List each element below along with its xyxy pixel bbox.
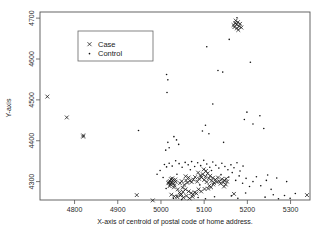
control-data-point: [156, 173, 158, 175]
y-tick-label: 4500: [28, 92, 35, 108]
control-data-point: [264, 196, 266, 198]
control-data-point: [165, 149, 167, 151]
control-data-point: [215, 164, 217, 166]
control-data-point: [266, 180, 268, 182]
y-axis-title: Y-axis: [5, 98, 12, 117]
control-data-point: [259, 115, 261, 117]
control-data-point: [184, 162, 186, 164]
control-data-point: [236, 17, 238, 19]
control-data-point: [236, 162, 238, 164]
y-tick-label: 4600: [28, 51, 35, 67]
control-data-point: [167, 79, 169, 81]
control-data-point: [167, 142, 169, 144]
control-data-point: [245, 192, 247, 194]
control-data-point: [228, 39, 230, 41]
control-data-point: [238, 175, 240, 177]
control-data-point: [202, 130, 204, 132]
control-data-point: [164, 164, 166, 166]
legend-label-case: Case: [98, 40, 116, 49]
control-data-point: [278, 198, 280, 200]
plot-canvas: 43004400450046004700 4800490050005100520…: [0, 0, 324, 236]
x-tick-label: 5300: [283, 206, 299, 213]
control-data-point: [212, 103, 214, 105]
control-data-point: [206, 163, 208, 165]
control-data-point: [260, 185, 262, 187]
control-data-point: [168, 147, 170, 149]
control-data-point: [208, 133, 210, 135]
y-tick-label: 4400: [28, 133, 35, 149]
control-data-point: [250, 61, 252, 63]
control-data-point: [218, 167, 220, 169]
control-data-point: [171, 165, 173, 167]
control-data-point: [230, 164, 232, 166]
control-data-point: [197, 162, 199, 164]
control-data-point: [173, 136, 175, 138]
control-data-point: [239, 170, 241, 172]
scatter-plot-figure: 43004400450046004700 4800490050005100520…: [0, 0, 324, 236]
legend: Case Control: [78, 31, 153, 61]
control-data-point: [162, 177, 164, 179]
control-data-point: [187, 164, 189, 166]
control-data-point: [231, 172, 233, 174]
control-data-point: [197, 197, 199, 199]
control-data-point: [295, 193, 297, 195]
control-data-point: [217, 70, 219, 72]
control-data-point: [194, 166, 196, 168]
control-data-point: [168, 162, 170, 164]
control-data-point: [220, 174, 222, 176]
control-data-point: [289, 198, 291, 200]
control-data-point: [138, 130, 140, 132]
control-data-point: [233, 167, 235, 169]
control-data-point: [175, 160, 177, 162]
control-data-point: [270, 189, 272, 191]
figure-background: [0, 0, 324, 236]
control-data-point: [205, 124, 207, 126]
x-tick-label: 5000: [153, 206, 169, 213]
x-tick-label: 5200: [240, 206, 256, 213]
control-data-point: [252, 181, 254, 183]
control-data-point: [176, 173, 178, 175]
control-data-point: [200, 165, 202, 167]
control-data-point: [223, 142, 225, 144]
control-data-point: [166, 92, 168, 94]
control-data-point: [246, 111, 248, 113]
legend-dot-marker-icon: [89, 53, 91, 55]
control-data-point: [181, 167, 183, 169]
control-data-point: [178, 163, 180, 165]
y-tick-label: 4700: [28, 10, 35, 26]
y-tick-label: 4300: [28, 174, 35, 190]
control-data-point: [242, 182, 244, 184]
control-data-point: [222, 71, 224, 73]
control-data-point: [237, 198, 239, 200]
legend-label-control: Control: [98, 49, 123, 58]
control-data-point: [252, 123, 254, 125]
control-data-point: [214, 196, 216, 198]
control-data-point: [242, 165, 244, 167]
control-data-point: [244, 119, 246, 121]
control-data-point: [263, 128, 265, 130]
control-data-point: [221, 162, 223, 164]
control-data-point: [190, 169, 192, 171]
control-data-point: [256, 176, 258, 178]
control-data-point: [178, 144, 180, 146]
control-data-point: [235, 180, 237, 182]
control-data-point: [206, 46, 208, 48]
control-data-point: [191, 161, 193, 163]
control-data-point: [165, 188, 167, 190]
control-data-point: [272, 194, 274, 196]
control-data-point: [199, 184, 201, 186]
control-data-point: [276, 177, 278, 179]
control-data-point: [231, 195, 233, 197]
control-data-point: [245, 178, 247, 180]
control-data-point: [205, 198, 207, 200]
control-data-point: [212, 161, 214, 163]
control-data-point: [166, 166, 168, 168]
control-data-point: [267, 174, 269, 176]
x-tick-label: 4800: [67, 206, 83, 213]
control-data-point: [249, 186, 251, 188]
control-data-point: [176, 139, 178, 141]
x-tick-label: 4900: [110, 206, 126, 213]
x-tick-label: 5100: [196, 206, 212, 213]
control-data-point: [211, 170, 213, 172]
control-data-point: [203, 160, 205, 162]
